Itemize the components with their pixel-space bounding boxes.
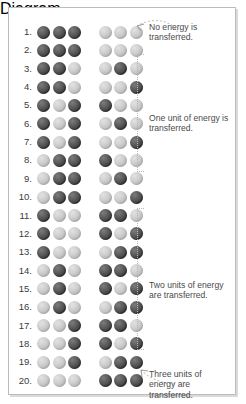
sphere-energized <box>130 191 143 204</box>
sphere-empty <box>68 374 81 387</box>
sphere-energized <box>68 99 81 112</box>
microstate-row: 5. <box>9 96 145 114</box>
microstate-row-list: 1.2.3.4.5.6.7.8.9.10.11.12.13.14.15.16.1… <box>9 8 235 394</box>
row-number: 9. <box>9 170 35 188</box>
sphere-group-left <box>37 282 84 295</box>
sphere-empty <box>37 374 50 387</box>
sphere-empty <box>68 246 81 259</box>
sphere-group-left <box>37 44 84 57</box>
sphere-energized <box>99 99 112 112</box>
sphere-energized <box>99 319 112 332</box>
sphere-empty <box>68 227 81 240</box>
sphere-energized <box>114 264 127 277</box>
microstate-row: 12. <box>9 225 145 243</box>
sphere-energized <box>53 172 66 185</box>
row-number: 5. <box>9 96 35 114</box>
row-number: 17. <box>9 317 35 335</box>
sphere-empty <box>37 172 50 185</box>
sphere-group-left <box>37 62 84 75</box>
sphere-energized <box>68 172 81 185</box>
sphere-energized <box>68 136 81 149</box>
sphere-empty <box>53 374 66 387</box>
row-number: 14. <box>9 262 35 280</box>
sphere-empty <box>114 337 127 350</box>
sphere-energized <box>68 191 81 204</box>
bracket-two-units <box>137 208 144 350</box>
sphere-energized <box>68 154 81 167</box>
microstate-row: 17. <box>9 317 145 335</box>
sphere-energized <box>37 26 50 39</box>
sphere-group-left <box>37 374 84 387</box>
sphere-empty <box>99 191 112 204</box>
microstate-row: 15. <box>9 280 145 298</box>
diagram-panel: 1.2.3.4.5.6.7.8.9.10.11.12.13.14.15.16.1… <box>8 7 236 395</box>
sphere-group-left <box>37 191 84 204</box>
sphere-group-left <box>37 246 84 259</box>
sphere-empty <box>114 81 127 94</box>
row-number: 4. <box>9 78 35 96</box>
sphere-group-left <box>37 136 84 149</box>
sphere-empty <box>37 154 50 167</box>
sphere-energized <box>114 209 127 222</box>
sphere-energized <box>99 227 112 240</box>
sphere-energized <box>37 136 50 149</box>
row-number: 20. <box>9 372 35 390</box>
sphere-energized <box>99 374 112 387</box>
sphere-empty <box>99 356 112 369</box>
sphere-energized <box>53 26 66 39</box>
row-number: 11. <box>9 207 35 225</box>
sphere-energized <box>37 81 50 94</box>
sphere-energized <box>68 319 81 332</box>
sphere-energized <box>99 264 112 277</box>
sphere-group-left <box>37 301 84 314</box>
row-number: 10. <box>9 188 35 206</box>
sphere-empty <box>68 301 81 314</box>
sphere-empty <box>37 301 50 314</box>
sphere-empty <box>99 44 112 57</box>
sphere-empty <box>130 172 143 185</box>
sphere-empty <box>53 136 66 149</box>
sphere-empty <box>114 282 127 295</box>
sphere-empty <box>68 282 81 295</box>
sphere-empty <box>37 264 50 277</box>
sphere-empty <box>53 356 66 369</box>
microstate-row: 13. <box>9 243 145 261</box>
annotation-three-units: Three units of energy are transferred. <box>149 369 217 400</box>
sphere-group-left <box>37 264 84 277</box>
sphere-group-right <box>99 191 146 204</box>
row-number: 6. <box>9 115 35 133</box>
sphere-energized <box>114 117 127 130</box>
sphere-energized <box>53 81 66 94</box>
sphere-empty <box>53 227 66 240</box>
sphere-energized <box>53 191 66 204</box>
sphere-empty <box>114 44 127 57</box>
sphere-energized <box>114 172 127 185</box>
sphere-empty <box>99 62 112 75</box>
sphere-empty <box>37 282 50 295</box>
row-number: 8. <box>9 151 35 169</box>
sphere-empty <box>114 191 127 204</box>
sphere-empty <box>99 136 112 149</box>
sphere-energized <box>53 264 66 277</box>
sphere-energized <box>53 62 66 75</box>
microstate-row: 11. <box>9 207 145 225</box>
sphere-group-left <box>37 117 84 130</box>
sphere-group-left <box>37 99 84 112</box>
sphere-empty <box>68 81 81 94</box>
sphere-energized <box>68 356 81 369</box>
row-number: 16. <box>9 298 35 316</box>
annotation-no-energy: No energy is transferred. <box>149 22 233 43</box>
sphere-empty <box>99 301 112 314</box>
sphere-empty <box>53 337 66 350</box>
sphere-energized <box>37 209 50 222</box>
microstate-row: 9. <box>9 170 145 188</box>
row-number: 12. <box>9 225 35 243</box>
row-number: 3. <box>9 60 35 78</box>
sphere-energized <box>68 26 81 39</box>
sphere-energized <box>53 154 66 167</box>
sphere-energized <box>99 154 112 167</box>
sphere-empty <box>37 319 50 332</box>
bracket-one-unit <box>137 54 144 172</box>
sphere-energized <box>37 62 50 75</box>
sphere-energized <box>68 337 81 350</box>
